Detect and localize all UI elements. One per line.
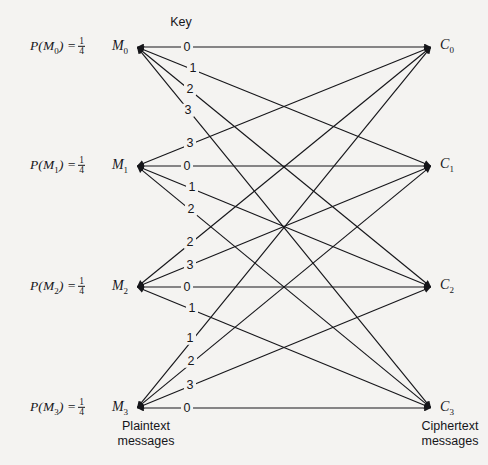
ciphertext-caption: Ciphertextmessages [422,419,479,450]
fraction: 14 [78,397,85,417]
key-label-m0-c3: 3 [182,104,194,117]
key-label-m2-c1: 3 [184,259,196,272]
ciphertext-node-label-c0: C0 [440,37,454,55]
fraction: 14 [78,36,85,56]
ciphertext-caption-line1: Ciphertext [422,419,479,434]
probability-p-m1: P(M1) =14 [30,156,85,176]
edges-group [137,47,430,408]
plaintext-node-label-m2: M2 [112,278,128,296]
cipher-mapping-diagram: 0123301223011230M0M1M2M3C0C1C2C3P(M0) =1… [0,0,488,465]
key-label-m1-c1: 0 [181,160,193,173]
fraction: 14 [78,155,85,175]
probability-p-m3: P(M3) =14 [30,398,85,418]
key-label-m1-c0: 3 [184,137,196,150]
key-label-m3-c2: 3 [184,379,196,392]
probability-p-m2: P(M2) =14 [30,277,85,297]
key-label-m0-c0: 0 [181,41,193,54]
plaintext-caption: Plaintextmessages [118,419,175,450]
plaintext-node-label-m0: M0 [112,38,128,56]
key-label-m3-c3: 0 [181,402,193,415]
key-label-m2-c2: 0 [181,281,193,294]
ciphertext-node-label-c3: C3 [440,399,454,417]
key-label-m2-c3: 1 [186,302,198,315]
probability-p-m0: P(M0) =14 [30,37,85,57]
plaintext-node-label-m3: M3 [112,399,128,417]
key-label-m3-c1: 2 [185,355,197,368]
key-label-m2-c0: 2 [184,236,196,249]
key-label-m3-c0: 1 [184,332,196,345]
key-label-m0-c1: 1 [187,62,199,75]
plaintext-caption-line2: messages [118,434,175,449]
fraction: 14 [78,276,85,296]
ciphertext-node-label-c1: C1 [440,156,454,174]
key-label-m1-c2: 1 [186,181,198,194]
key-label-m0-c2: 2 [184,83,196,96]
key-label-m1-c3: 2 [185,203,197,216]
ciphertext-node-label-c2: C2 [440,277,454,295]
edge-wiring-layer [0,0,488,465]
ciphertext-caption-line2: messages [422,434,479,449]
key-title: Key [170,15,192,29]
plaintext-node-label-m1: M1 [112,157,128,175]
plaintext-caption-line1: Plaintext [118,419,175,434]
